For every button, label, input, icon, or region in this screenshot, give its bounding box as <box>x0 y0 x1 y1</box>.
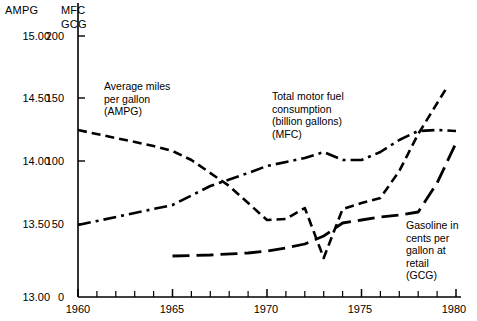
annotation-ampg-line-1: Average miles <box>104 80 170 93</box>
annotation-mfc-line-1: Total motor fuel <box>272 90 344 103</box>
annotation-gcg-line-1: Gasoline in <box>406 219 459 232</box>
annotation-gcg-line-3: gallon at <box>406 244 459 257</box>
annotation-mfc-line-2: consumption <box>272 103 344 116</box>
annotation-gcg-line-4: retail <box>406 257 459 270</box>
annotation-gcg-line-2: cents per <box>406 232 459 245</box>
annotation-mfc: Total motor fuel consumption (billion ga… <box>272 90 344 140</box>
annotation-mfc-line-4: (MFC) <box>272 128 344 141</box>
annotation-gcg-line-5: (GCG) <box>406 269 459 282</box>
annotation-ampg: Average miles per gallon (AMPG) <box>104 80 170 118</box>
annotation-ampg-line-2: per gallon <box>104 93 170 106</box>
annotation-gcg: Gasoline in cents per gallon at retail (… <box>406 219 459 282</box>
chart-figure: AMPG MFC GCG 15.00 14.50 14.00 13.50 13.… <box>0 0 477 321</box>
series-line-mfc <box>78 130 456 225</box>
annotation-ampg-line-3: (AMPG) <box>104 105 170 118</box>
annotation-mfc-line-3: (billion gallons) <box>272 115 344 128</box>
